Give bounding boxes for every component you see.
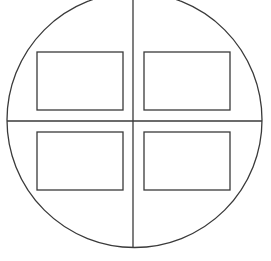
quadrant-circle-diagram [0, 0, 271, 261]
quadrant-box-bottom-left [37, 132, 123, 190]
quadrant-box-top-left [37, 52, 123, 110]
quadrant-box-top-right [144, 52, 230, 110]
quadrant-box-bottom-right [144, 132, 230, 190]
outer-circle [7, 0, 262, 248]
